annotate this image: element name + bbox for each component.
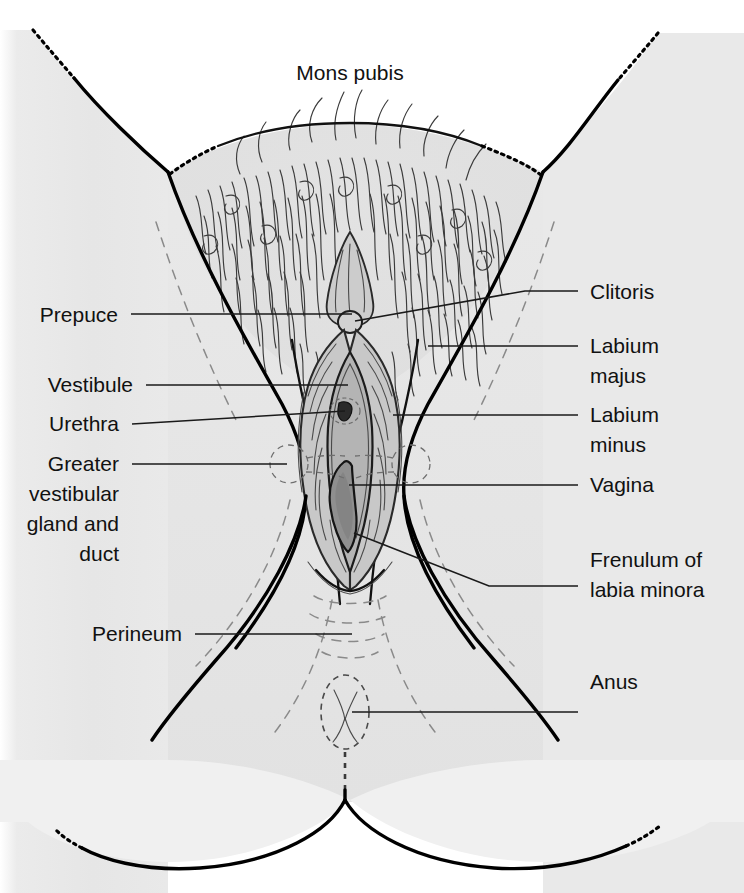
label-labium-minus-line2: minus: [590, 433, 646, 456]
label-prepuce: Prepuce: [40, 303, 118, 326]
label-mons-pubis: Mons pubis: [296, 61, 403, 84]
label-greater-vestibular-gland-line2: vestibular: [29, 482, 119, 505]
label-frenulum-line2: labia minora: [590, 578, 705, 601]
label-perineum: Perineum: [92, 622, 182, 645]
label-labium-majus-line2: majus: [590, 364, 646, 387]
label-greater-vestibular-gland-line4: duct: [79, 542, 119, 565]
label-vestibule: Vestibule: [48, 373, 133, 396]
label-labium-minus-line1: Labium: [590, 403, 659, 426]
label-frenulum-line1: Frenulum of: [590, 548, 702, 571]
label-labium-majus-line1: Labium: [590, 334, 659, 357]
label-urethra: Urethra: [49, 412, 119, 435]
label-clitoris: Clitoris: [590, 280, 654, 303]
label-vagina: Vagina: [590, 473, 654, 496]
label-anus: Anus: [590, 670, 638, 693]
label-greater-vestibular-gland-line1: Greater: [48, 452, 119, 475]
figure-canvas: Mons pubis Prepuce Vestibule Urethra Gre…: [0, 0, 744, 893]
label-greater-vestibular-gland-line3: gland and: [27, 512, 119, 535]
anatomy-diagram: Mons pubis Prepuce Vestibule Urethra Gre…: [0, 0, 744, 893]
